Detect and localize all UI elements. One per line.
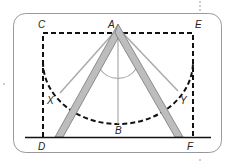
right-leg: [115, 24, 183, 137]
label-a: A: [107, 19, 115, 30]
left-leg: [55, 24, 121, 137]
pendulum-diagram: C A E X Y B D F: [0, 0, 230, 165]
label-c: C: [38, 19, 46, 30]
label-e: E: [195, 19, 202, 30]
label-y: Y: [180, 95, 188, 106]
label-b: B: [115, 125, 122, 136]
label-x: X: [46, 95, 54, 106]
label-d: D: [38, 141, 45, 152]
label-f: F: [187, 141, 194, 152]
